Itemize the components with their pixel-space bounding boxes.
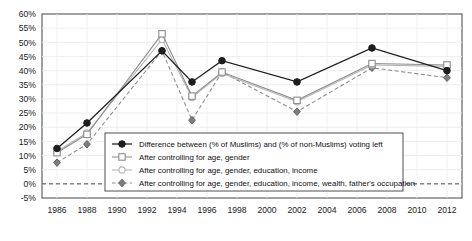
y-axis-tick-label: 5% — [24, 165, 37, 175]
x-axis-tick-label: 2000 — [257, 205, 276, 215]
x-axis-tick-label: 2004 — [317, 205, 336, 215]
y-axis-tick-label: 20% — [19, 122, 37, 132]
data-point-marker — [54, 145, 61, 152]
data-point-marker — [369, 60, 375, 66]
y-axis-tick-label: 50% — [19, 38, 37, 48]
y-axis-tick-label: 40% — [19, 66, 37, 76]
data-point-marker — [294, 79, 301, 86]
x-axis-tick-label: 1988 — [77, 205, 96, 215]
legend-item[interactable]: After controlling for age, gender, educa… — [112, 179, 415, 188]
y-axis-tick-label: 10% — [19, 151, 37, 161]
data-point-marker — [159, 31, 165, 37]
y-axis-tick-label: -5% — [21, 193, 37, 203]
data-point-marker — [84, 120, 91, 127]
y-axis-tick-label: 35% — [19, 80, 37, 90]
x-axis-tick-label: 1986 — [47, 205, 66, 215]
x-axis-tick-label: 1996 — [197, 205, 216, 215]
y-axis-tick-label: 45% — [19, 52, 37, 62]
data-point-marker — [294, 97, 300, 103]
chart-container: -5%0%5%10%15%20%25%30%35%40%45%50%55%60%… — [0, 0, 472, 241]
x-axis-tick-label: 2006 — [347, 205, 366, 215]
data-point-marker — [84, 131, 90, 137]
data-point-marker — [119, 141, 126, 148]
data-point-marker — [189, 93, 195, 99]
data-point-marker — [219, 57, 226, 64]
data-point-marker — [369, 45, 376, 52]
y-axis-tick-label: 30% — [19, 94, 37, 104]
y-axis-tick-label: 55% — [19, 23, 37, 33]
line-chart: -5%0%5%10%15%20%25%30%35%40%45%50%55%60%… — [0, 0, 472, 241]
data-point-marker — [159, 48, 166, 55]
x-axis-tick-label: 1990 — [107, 205, 126, 215]
x-axis-tick-label: 2012 — [437, 205, 456, 215]
data-point-marker — [189, 79, 196, 86]
data-point-marker — [219, 69, 225, 75]
chart-legend: Difference between (% of Muslims) and (%… — [105, 133, 415, 191]
y-axis-tick-label: 0% — [24, 179, 37, 189]
x-axis-tick-label: 1994 — [167, 205, 186, 215]
x-axis-tick-label: 2010 — [407, 205, 426, 215]
y-axis-tick-label: 25% — [19, 108, 37, 118]
legend-label: After controlling for age, gender — [139, 153, 250, 162]
x-axis-tick-label: 2002 — [287, 205, 306, 215]
data-point-marker — [444, 67, 451, 74]
x-axis-tick-label: 1992 — [137, 205, 156, 215]
legend-label: Difference between (% of Muslims) and (%… — [139, 140, 383, 149]
y-axis-tick-label: 60% — [19, 9, 37, 19]
data-point-marker — [119, 167, 125, 173]
legend-item[interactable]: Difference between (% of Muslims) and (%… — [112, 140, 383, 149]
y-axis-tick-label: 15% — [19, 137, 37, 147]
legend-label: After controlling for age, gender, educa… — [139, 166, 318, 175]
x-axis-tick-label: 1998 — [227, 205, 246, 215]
legend-item[interactable]: After controlling for age, gender, educa… — [112, 166, 318, 175]
legend-label: After controlling for age, gender, educa… — [139, 179, 415, 188]
data-point-marker — [119, 154, 125, 160]
x-axis-tick-label: 2008 — [377, 205, 396, 215]
